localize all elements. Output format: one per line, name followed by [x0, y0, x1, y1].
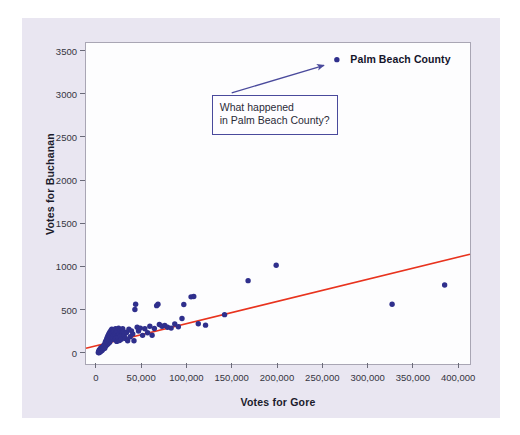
data-point [152, 326, 157, 331]
data-point [155, 302, 160, 307]
x-tick-mark [95, 363, 96, 368]
x-axis-title: Votes for Gore [85, 396, 471, 408]
data-point [131, 338, 136, 343]
data-point [133, 302, 138, 307]
x-tick-mark [412, 363, 413, 368]
data-point [176, 324, 181, 329]
data-point [389, 302, 394, 307]
x-tick-mark [186, 363, 187, 368]
data-point [138, 325, 143, 330]
y-tick-mark [80, 223, 85, 224]
y-tick-mark [80, 180, 85, 181]
y-tick-mark [80, 93, 85, 94]
y-tick-label: 1000 [41, 261, 77, 272]
x-tick-mark [141, 363, 142, 368]
data-point [222, 312, 227, 317]
data-point [245, 278, 250, 283]
y-tick-mark [80, 136, 85, 137]
x-tick-label: 350,000 [396, 372, 430, 383]
data-point [181, 302, 186, 307]
y-tick-mark [80, 309, 85, 310]
callout-box: What happenedin Palm Beach County? [212, 95, 338, 135]
y-tick-label: 0 [41, 347, 77, 358]
y-tick-label: 1500 [41, 218, 77, 229]
figure-page: Votes for Buchanan Votes for Gore 050010… [0, 0, 520, 435]
data-point [203, 322, 208, 327]
x-tick-label: 250,000 [305, 372, 339, 383]
y-tick-label: 2000 [41, 175, 77, 186]
x-tick-mark [322, 363, 323, 368]
y-tick-label: 3500 [41, 45, 77, 56]
x-tick-label: 200,000 [260, 372, 294, 383]
chart-canvas [86, 43, 470, 364]
y-tick-mark [80, 352, 85, 353]
data-point [168, 325, 173, 330]
y-tick-mark [80, 266, 85, 267]
scatter-figure: Votes for Buchanan Votes for Gore 050010… [22, 18, 500, 418]
data-point [179, 316, 184, 321]
data-point [149, 332, 154, 337]
data-point [140, 333, 145, 338]
plot-inner [86, 43, 470, 364]
data-point [334, 57, 339, 62]
data-point [196, 321, 201, 326]
x-tick-mark [231, 363, 232, 368]
x-tick-label: 300,000 [350, 372, 384, 383]
x-tick-mark [458, 363, 459, 368]
callout-line-1: What happened [220, 101, 330, 114]
x-tick-label: 50,000 [127, 372, 156, 383]
plot-area [85, 42, 471, 365]
data-point [273, 262, 278, 267]
y-tick-mark [80, 50, 85, 51]
data-point [191, 294, 196, 299]
data-point [442, 282, 447, 287]
x-tick-label: 0 [93, 372, 98, 383]
callout-line-2: in Palm Beach County? [220, 114, 330, 127]
palm-beach-county-label: Palm Beach County [350, 53, 450, 65]
data-point [130, 331, 135, 336]
data-point [102, 346, 107, 351]
x-tick-label: 100,000 [169, 372, 203, 383]
x-tick-label: 400,000 [441, 372, 475, 383]
y-tick-label: 2500 [41, 131, 77, 142]
y-tick-label: 3000 [41, 88, 77, 99]
y-tick-label: 500 [41, 304, 77, 315]
data-point [132, 307, 137, 312]
x-tick-mark [367, 363, 368, 368]
x-tick-label: 150,000 [215, 372, 249, 383]
x-tick-mark [277, 363, 278, 368]
